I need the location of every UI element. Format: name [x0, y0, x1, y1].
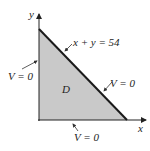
pointer-bottom-label [73, 124, 78, 131]
hypotenuse-boundary-label: V = 0 [110, 78, 135, 89]
x-axis-label: x [138, 123, 143, 134]
y-axis-label: y [29, 9, 34, 20]
pointer-left-label [22, 61, 37, 69]
left-boundary-label: V = 0 [8, 71, 33, 82]
pointer-hypotenuse-label [65, 44, 72, 51]
region-label: D [62, 84, 70, 95]
bottom-boundary-label: V = 0 [74, 132, 99, 143]
hypotenuse-equation-label: x + y = 54 [73, 37, 120, 48]
